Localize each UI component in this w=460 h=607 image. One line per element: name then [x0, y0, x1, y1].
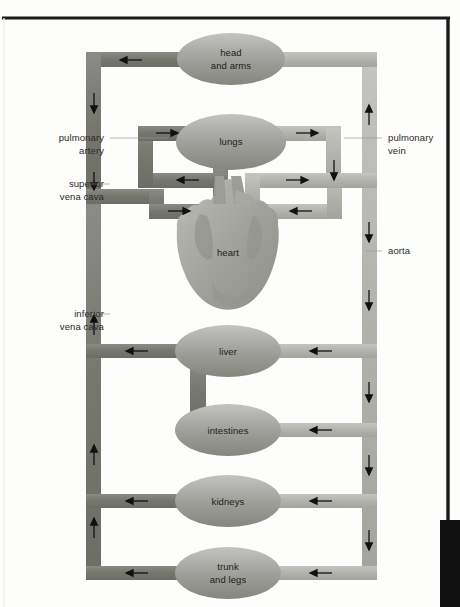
callout-superior-vena-cava-line2: vena cava: [60, 191, 105, 202]
organ-label-trunk-and-legs-line2: and legs: [210, 574, 247, 585]
callout-aorta-line1: aorta: [388, 245, 411, 256]
vessel-aorta-to-head: [271, 52, 377, 67]
callout-pulmonary-vein-line2: vein: [388, 145, 406, 156]
organ-label-lungs: lungs: [219, 136, 242, 147]
organ-label-heart: heart: [217, 247, 239, 258]
callout-pulmonary-artery-line2: artery: [79, 145, 104, 156]
organ-label-liver: liver: [219, 346, 237, 357]
organ-label-intestines: intestines: [207, 425, 248, 436]
callout-superior-vena-cava-line1: superior: [69, 178, 104, 189]
callout-pulmonary-artery-line1: pulmonary: [59, 132, 104, 143]
callout-inferior-vena-cava-line2: vena cava: [60, 321, 105, 332]
callout-inferior-vena-cava-line1: inferior: [74, 308, 104, 319]
callout-pulmonary-vein-line1: pulmonary: [388, 132, 433, 143]
organ-label-kidneys: kidneys: [212, 496, 245, 507]
organ-head-and-arms: [177, 33, 285, 85]
organ-label-trunk-and-legs-line1: trunk: [217, 561, 239, 572]
organ-trunk-and-legs: [175, 547, 281, 599]
circulatory-system-diagram-page: head and arms lungs heart liver intestin…: [0, 0, 460, 607]
heart-great-vessel-left: [213, 176, 226, 204]
circulatory-diagram-canvas: head and arms lungs heart liver intestin…: [0, 0, 460, 607]
organ-label-head-and-arms-line2: and arms: [211, 60, 252, 71]
organ-label-head-and-arms-line1: head: [220, 47, 242, 58]
